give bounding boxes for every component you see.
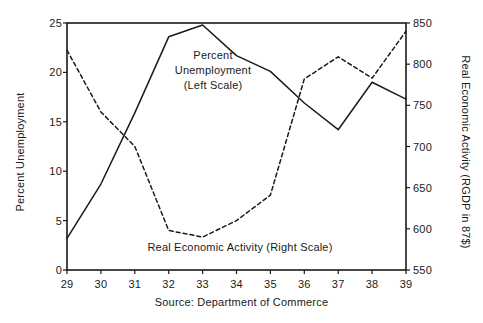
y-axis-right-tick-label: 550	[413, 264, 453, 276]
y-axis-left-tick-label: 25	[20, 17, 62, 29]
y-axis-right-tick-label: 700	[413, 141, 453, 153]
series-annotation-rgdp: Real Economic Activity (Right Scale)	[130, 240, 350, 255]
annotation-line: (Left Scale)	[163, 78, 263, 93]
y-axis-left-tick-label: 15	[20, 116, 62, 128]
y-axis-right-tick-label: 800	[413, 58, 453, 70]
y-axis-right-tick-label: 650	[413, 182, 453, 194]
chart-figure: Percent Unemployment Real Economic Activ…	[0, 0, 483, 323]
x-axis-tick-label: 34	[222, 278, 252, 290]
y-axis-right-tick-label: 850	[413, 17, 453, 29]
x-axis-tick-label: 32	[154, 278, 184, 290]
x-axis-tick-label: 39	[391, 278, 421, 290]
x-axis-tick-label: 35	[255, 278, 285, 290]
x-axis-tick-label: 37	[323, 278, 353, 290]
y-axis-left-tick-label: 5	[20, 215, 62, 227]
x-axis-tick-label: 30	[86, 278, 116, 290]
annotation-line: Unemployment	[163, 63, 263, 78]
y-axis-left-tick-label: 20	[20, 66, 62, 78]
y-axis-left-tick-label: 10	[20, 165, 62, 177]
x-axis-tick-label: 33	[188, 278, 218, 290]
x-axis-tick-label: 31	[120, 278, 150, 290]
x-axis-tick-label: 29	[52, 278, 82, 290]
y-axis-right-title: Real Economic Activity (RGDP in 87$)	[460, 2, 472, 302]
y-axis-right-tick-label: 600	[413, 223, 453, 235]
source-note: Source: Department of Commerce	[0, 296, 483, 308]
y-axis-left-tick-label: 0	[20, 264, 62, 276]
series-annotation-unemployment: Percent Unemployment (Left Scale)	[163, 48, 263, 93]
x-axis-tick-label: 36	[289, 278, 319, 290]
y-axis-right-tick-label: 750	[413, 99, 453, 111]
x-axis-tick-label: 38	[357, 278, 387, 290]
annotation-line: Percent	[163, 48, 263, 63]
